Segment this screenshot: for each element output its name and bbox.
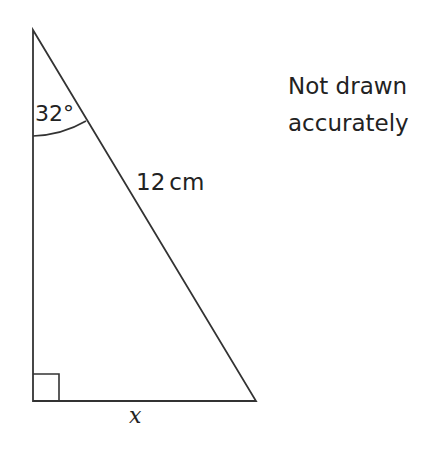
hypotenuse-label: 12cm	[136, 169, 204, 195]
angle-label: 32°	[35, 101, 74, 126]
note-line-1: Not drawn	[288, 68, 409, 105]
triangle	[33, 30, 256, 401]
right-angle-marker	[33, 374, 59, 401]
note-line-2: accurately	[288, 105, 409, 142]
not-drawn-accurately-note: Not drawn accurately	[288, 68, 409, 142]
base-label: x	[129, 403, 142, 428]
